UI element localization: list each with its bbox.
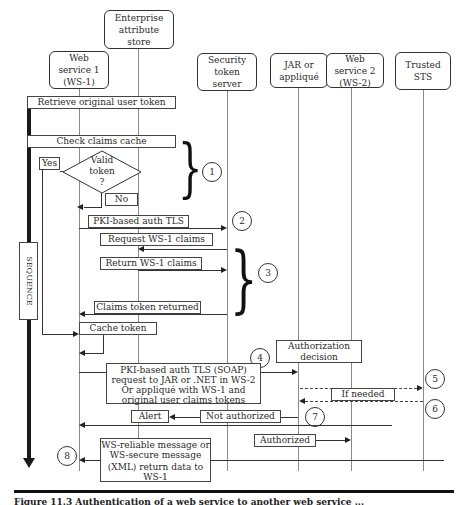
no-path-horizontal — [84, 207, 102, 208]
no-path-vertical — [101, 193, 102, 207]
step-marker-2: 2 — [232, 211, 252, 231]
actor-label: Web — [334, 53, 375, 65]
actor-label: (WS-1) — [58, 76, 99, 88]
step-cache-token: Cache token — [79, 322, 157, 335]
step-claims-token-returned: Claims token returned — [94, 301, 201, 314]
actor-label: Enterprise — [115, 12, 164, 24]
step-marker-5: 5 — [425, 369, 445, 389]
arrow-head — [79, 311, 85, 317]
yes-path-vertical — [42, 170, 43, 334]
actor-label: Trusted — [405, 59, 440, 71]
not-authorized-arrow-line — [175, 417, 201, 418]
lifeline-ws2 — [351, 88, 352, 471]
actor-trusted-sts: TrustedSTS — [395, 52, 451, 90]
lifeline-jar — [298, 88, 299, 471]
arrow-head — [221, 225, 227, 231]
brace-group-3: } — [230, 243, 257, 315]
step-marker-3: 3 — [258, 263, 278, 283]
decision-text: Valid — [62, 155, 142, 166]
arrow-head — [299, 398, 305, 404]
decision-valid-token: Valid token ? — [62, 155, 142, 188]
soap-request-text: original user claims tokens — [107, 395, 260, 405]
step-return-ws1-claims: Return WS-1 claims — [100, 257, 202, 270]
auth-decision-text: decision — [277, 352, 361, 363]
pki-tls-arrow-line — [79, 228, 221, 229]
step-authorization-decision: Authorization decision — [276, 340, 362, 363]
step-alert: Alert — [131, 410, 169, 423]
cache-token-connector-horizontal — [85, 353, 104, 354]
yes-path-horizontal — [42, 334, 74, 335]
arrow-head — [77, 204, 83, 210]
actor-label: Security — [208, 54, 246, 66]
step-reliable-message: WS-reliable message or WS-secure message… — [100, 438, 211, 482]
soap-request-text: request to JAR or .NET in WS-2 — [107, 375, 260, 385]
request-claims-arrow-line — [144, 249, 227, 250]
lifeline-trusted-sts — [423, 90, 424, 471]
step-marker-7: 7 — [305, 407, 325, 427]
arrow-head — [417, 385, 423, 391]
arrow-head — [221, 267, 227, 273]
step-request-ws1-claims: Request WS-1 claims — [100, 233, 213, 246]
arrow-head — [79, 350, 85, 356]
arrow-head — [345, 437, 351, 443]
actor-label: service 1 — [58, 64, 99, 76]
actor-label: server — [208, 78, 246, 90]
actor-label: JAR or — [279, 59, 319, 71]
reliable-message-text: WS-reliable message or — [101, 440, 210, 450]
arrow-head — [138, 246, 144, 252]
figure-rule — [14, 490, 454, 493]
actor-jar-or-applique: JAR orappliqué — [270, 53, 328, 88]
actor-enterprise-attribute-store: Enterpriseattributestore — [104, 10, 174, 49]
arrow-head — [292, 369, 298, 375]
reliable-message-text: WS-1 — [101, 472, 210, 482]
step-check-claims-cache: Check claims cache — [27, 135, 176, 148]
figure-caption: Figure 11.3 Authentication of a web serv… — [14, 497, 364, 505]
brace-group-1: } — [178, 136, 202, 200]
actor-label: attribute — [115, 24, 164, 36]
actor-label: Web — [58, 52, 99, 64]
step-soap-request: PKI-based auth TLS (SOAP) request to JAR… — [106, 363, 261, 404]
step-marker-6: 6 — [425, 399, 445, 419]
sequence-label: SEQUENCE — [19, 242, 38, 320]
step-marker-8: 8 — [57, 446, 77, 466]
sequence-arrow-head — [23, 458, 35, 468]
if-needed-dashed-response — [305, 401, 423, 402]
not-authorized-connector — [281, 417, 298, 418]
actor-label: store — [115, 36, 164, 48]
step-pki-auth-tls: PKI-based auth TLS — [88, 215, 189, 228]
actor-label: token — [208, 66, 246, 78]
actor-web-service-2: Webservice 2(WS-2) — [326, 53, 384, 88]
cache-token-connector-vertical — [103, 335, 104, 353]
step-if-needed: If needed — [331, 388, 395, 401]
soap-request-text: PKI-based auth TLS (SOAP) — [107, 365, 260, 375]
actor-security-token-server: Securitytokenserver — [197, 53, 257, 91]
soap-request-text: Or appliqué with WS-1 and — [107, 385, 260, 395]
actor-label: STS — [405, 71, 440, 83]
actor-label: appliqué — [279, 71, 319, 83]
claims-returned-arrow-line — [85, 314, 227, 315]
reliable-message-text: (XML) return data to — [101, 462, 210, 472]
actor-web-service-1: Webservice 1(WS-1) — [49, 51, 109, 89]
yes-label: Yes — [39, 157, 60, 170]
no-label: No — [105, 193, 138, 206]
step-authorized: Authorized — [254, 434, 316, 447]
step-not-authorized: Not authorized — [200, 410, 281, 423]
arrow-head — [79, 422, 85, 428]
actor-label: service 2 — [334, 65, 375, 77]
auth-decision-text: Authorization — [277, 341, 361, 352]
reliable-message-text: WS-secure message — [101, 450, 210, 460]
yes-connector — [60, 171, 63, 172]
step-retrieve-token: Retrieve original user token — [27, 96, 176, 109]
arrow-head — [169, 414, 175, 420]
authorized-arrow-line — [316, 440, 345, 441]
decision-text: ? — [62, 177, 142, 188]
arrow-head — [79, 457, 85, 463]
actor-label: (WS-2) — [334, 77, 375, 89]
decision-text: token — [62, 166, 142, 177]
alert-return-arrow-line — [85, 425, 392, 426]
sequence-label-text: SEQUENCE — [24, 256, 33, 305]
return-claims-arrow-line — [138, 270, 221, 271]
step-marker-1: 1 — [202, 162, 222, 182]
